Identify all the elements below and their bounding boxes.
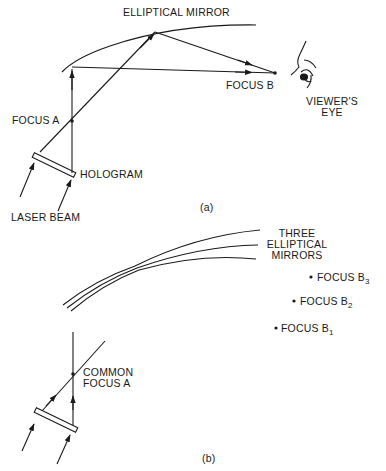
caption-b: (b) <box>202 453 215 464</box>
focus-b2-label: FOCUS B2 <box>300 296 353 308</box>
focus-b2-subscript: 2 <box>348 301 353 310</box>
focus-b3-point <box>309 275 312 278</box>
hologram-label: HOLOGRAM <box>80 169 143 180</box>
viewer-eye-icon <box>291 41 316 88</box>
three-mirrors-label-line3: MIRRORS <box>262 250 332 261</box>
laser-beam-left <box>20 163 34 197</box>
common-focus-a-label: COMMON FOCUS A <box>83 367 133 389</box>
focus-b-point <box>273 71 277 75</box>
viewers-eye-label: VIEWER'S EYE <box>302 96 362 118</box>
mirror-1 <box>71 257 256 311</box>
panel-b <box>22 230 313 464</box>
caption-a: (a) <box>200 202 213 213</box>
laser-beam-right <box>58 180 71 211</box>
three-mirrors-label: THREE ELLIPTICAL MIRRORS <box>262 228 332 261</box>
common-focus-a-label-line2: FOCUS A <box>83 378 133 389</box>
elliptical-mirror-label: ELLIPTICAL MIRROR <box>123 7 230 18</box>
mirror-2 <box>67 245 258 308</box>
focus-b2-point <box>292 299 295 302</box>
focus-b1-subscript: 1 <box>329 328 334 337</box>
focus-b3-text: FOCUS B <box>317 271 365 283</box>
focus-a-label: FOCUS A <box>12 115 60 126</box>
viewers-eye-label-line2: EYE <box>302 107 362 118</box>
panel-a <box>20 25 316 211</box>
laser-beam-b-right <box>57 435 70 464</box>
focus-b3-subscript: 3 <box>365 277 370 286</box>
focus-b1-text: FOCUS B <box>281 322 329 334</box>
focus-b2-text: FOCUS B <box>300 295 348 307</box>
hologram-plate-b <box>34 408 78 433</box>
reflected-beam-upper <box>155 32 275 73</box>
elliptical-mirror-arc <box>62 25 256 72</box>
focus-b-label: FOCUS B <box>226 80 274 91</box>
hologram-plate <box>32 153 76 178</box>
focus-a-point <box>70 119 74 123</box>
laser-beam-label: LASER BEAM <box>11 212 80 223</box>
common-focus-a-point <box>71 372 75 376</box>
focus-b3-label: FOCUS B3 <box>317 272 370 284</box>
laser-beam-b-left <box>22 424 34 451</box>
focus-b1-label: FOCUS B1 <box>281 323 334 335</box>
focus-b1-point <box>274 326 277 329</box>
mirror-3 <box>63 230 260 305</box>
